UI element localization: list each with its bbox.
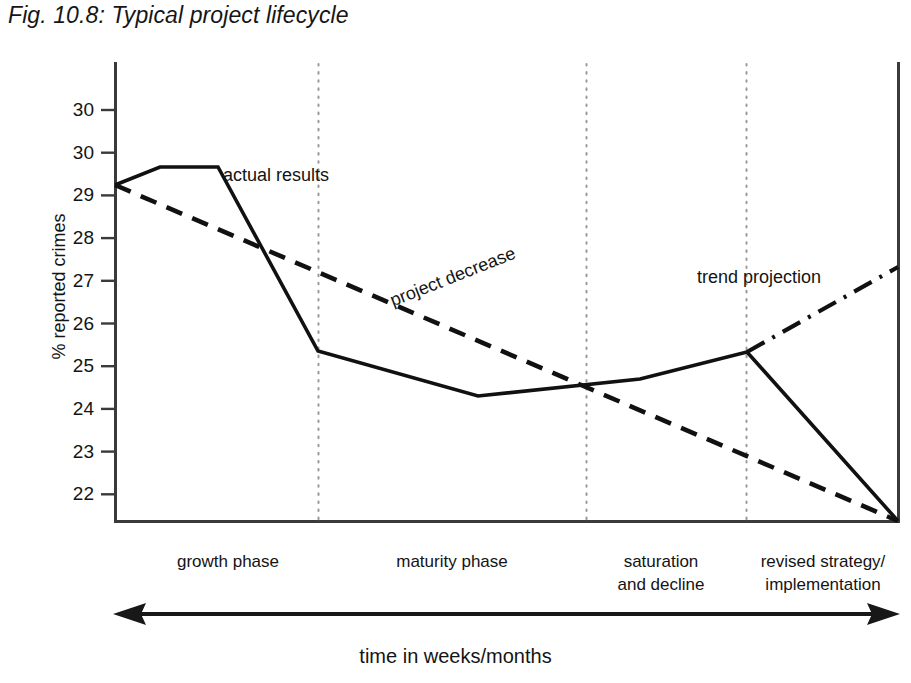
annotation-actual-results: actual results (223, 165, 329, 186)
phase-label-maturity: maturity phase (362, 550, 542, 573)
phase-label-maturity-line1: maturity phase (362, 550, 542, 573)
series-project-decrease (115, 185, 898, 521)
y-tick-label-8: 23 (48, 441, 94, 463)
phase-label-growth: growth phase (138, 550, 318, 573)
y-tick-label-7: 24 (48, 398, 94, 420)
y-tick-label-0: 30 (48, 99, 94, 121)
phase-label-growth-line1: growth phase (138, 550, 318, 573)
axis-frame (114, 62, 900, 522)
time-axis-arrow (113, 603, 900, 625)
figure-root: Fig. 10.8: Typical project lifecycle (0, 0, 911, 683)
phase-label-saturation-line2: and decline (581, 573, 741, 596)
phase-label-revised-strategy: revised strategy/ implementation (738, 550, 908, 596)
y-axis-ticks (101, 110, 115, 494)
x-axis-title: time in weeks/months (0, 645, 911, 668)
phase-dividers (319, 64, 747, 521)
annotation-trend-projection: trend projection (697, 267, 821, 288)
phase-label-saturation-line1: saturation (581, 550, 741, 573)
phase-label-saturation: saturation and decline (581, 550, 741, 596)
y-axis-title: % reported crimes (49, 187, 70, 387)
series-actual-results (115, 167, 898, 521)
y-tick-label-1: 30 (48, 142, 94, 164)
phase-label-revised-strategy-line1: revised strategy/ (738, 550, 908, 573)
y-tick-label-9: 22 (48, 483, 94, 505)
phase-label-revised-strategy-line2: implementation (738, 573, 908, 596)
